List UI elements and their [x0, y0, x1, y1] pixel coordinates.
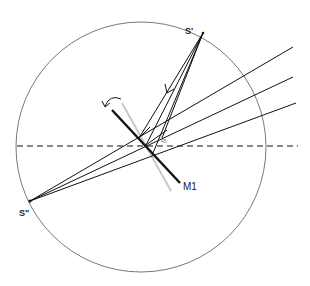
source-double-prime-point — [28, 199, 31, 202]
source-prime-point — [202, 32, 205, 35]
label-s-prime: S' — [185, 26, 193, 36]
label-angle-45: 45 — [161, 138, 167, 144]
rotation-arrow-icon — [102, 98, 121, 107]
diagram-svg: S' S" M1 45 — [0, 0, 310, 286]
optics-diagram: S' S" M1 45 — [0, 0, 310, 286]
reference-circle — [16, 22, 266, 272]
label-mirror-m1: M1 — [183, 181, 197, 192]
label-s-double-prime: S" — [19, 208, 29, 218]
